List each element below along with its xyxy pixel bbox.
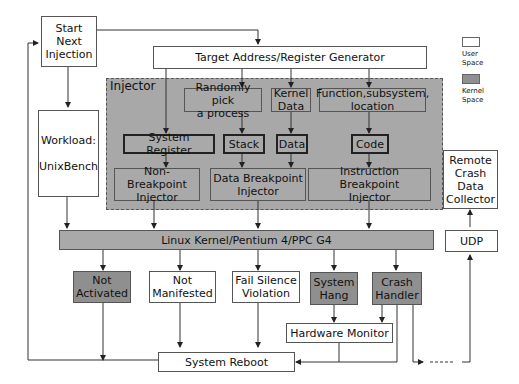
fail-silence-violation-box: Fail Silence Violation: [232, 271, 300, 303]
data-breakpoint-injector-box: Data Breakpoint Injector: [210, 168, 306, 201]
workload-box: Workload: UnixBench: [38, 110, 99, 197]
kernel-data-box: Kernel Data: [271, 88, 311, 112]
crash-handler-box: Crash Handler: [372, 272, 422, 305]
code-box: Code: [351, 134, 389, 154]
udp-box: UDP: [445, 230, 498, 252]
instruction-breakpoint-injector-box: Instruction Breakpoint Injector: [308, 168, 431, 201]
hardware-monitor-box: Hardware Monitor: [286, 323, 393, 343]
not-activated-box: Not Activated: [73, 271, 131, 303]
legend-kernel-swatch: [462, 74, 480, 84]
remote-crash-collector-box: Remote Crash Data Collector: [443, 150, 498, 209]
start-next-injection-box: Start Next Injection: [41, 16, 97, 67]
random-process-box: Randomly pick a process: [184, 88, 262, 112]
legend-user-swatch: [462, 37, 480, 47]
function-location-box: Function,subsystem, location: [319, 88, 426, 112]
data-box: Data: [276, 134, 308, 154]
stack-box: Stack: [223, 134, 265, 154]
system-hang-box: System Hang: [310, 272, 358, 305]
not-manifested-box: Not Manifested: [149, 271, 216, 303]
legend-user-label: User Space: [462, 50, 483, 68]
system-reboot-box: System Reboot: [158, 352, 295, 372]
system-register-box: System Register: [123, 134, 215, 154]
target-address-generator-box: Target Address/Register Generator: [153, 46, 427, 69]
non-breakpoint-injector-box: Non-Breakpoint Injector: [114, 168, 200, 201]
linux-kernel-bar: Linux Kernel/Pentium 4/PPC G4: [59, 230, 434, 250]
legend-kernel-label: Kernel Space: [462, 87, 484, 105]
